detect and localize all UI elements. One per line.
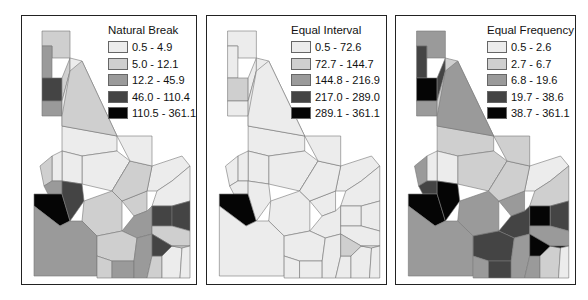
county-region [62,151,82,184]
legend-equal-interval: Equal Interval 0.5 - 72.6 72.7 - 144.7 1… [291,24,380,122]
county-region [437,151,458,184]
legend-title: Equal Interval [291,24,380,36]
legend-swatch [108,41,128,53]
legend-item: 0.5 - 72.6 [291,39,380,56]
legend-label: 217.0 - 289.0 [315,91,380,103]
legend-swatch [487,58,507,70]
legend-equal-frequency: Equal Frequency 0.5 - 2.6 2.7 - 6.7 6.8 … [487,24,574,122]
county-region [284,231,325,261]
county-region [42,78,62,101]
legend-item: 0.5 - 2.6 [487,39,574,56]
legend-label: 5.0 - 12.1 [132,58,178,70]
legend-swatch [487,91,507,103]
legend-item: 46.0 - 110.4 [108,89,196,106]
legend-item: 72.7 - 144.7 [291,56,380,73]
county-region [341,206,362,226]
county-region [300,261,323,278]
legend-title: Equal Frequency [487,24,574,36]
legend-label: 0.5 - 4.9 [132,41,172,53]
county-region [112,261,134,278]
panel-equal-interval: Equal Interval 0.5 - 72.6 72.7 - 144.7 1… [206,15,387,285]
county-region [427,151,437,181]
county-region [42,46,52,78]
county-region [417,78,438,101]
legend-item: 5.0 - 12.1 [108,56,196,73]
legend-item: 38.7 - 361.1 [487,105,574,122]
legend-label: 38.7 - 361.1 [511,107,570,119]
legend-label: 46.0 - 110.4 [132,91,190,103]
county-region [152,206,172,226]
county-region [489,261,512,278]
legend-swatch [291,91,311,103]
legend-item: 289.1 - 361.1 [291,105,380,122]
county-region [417,46,427,78]
legend-label: 72.7 - 144.7 [315,58,374,70]
legend-item: 0.5 - 4.9 [108,39,196,56]
county-region [473,231,514,261]
county-region [97,231,137,261]
panel-natural-break: Natural Break 0.5 - 4.9 5.0 - 12.1 12.2 … [21,15,197,285]
legend-natural-break: Natural Break 0.5 - 4.9 5.0 - 12.1 12.2 … [108,24,196,122]
legend-item: 217.0 - 289.0 [291,89,380,106]
legend-swatch [487,74,507,86]
legend-item: 144.8 - 216.9 [291,72,380,89]
legend-label: 19.7 - 38.6 [511,91,564,103]
legend-swatch [291,41,311,53]
legend-item: 110.5 - 361.1 [108,105,196,122]
legend-label: 12.2 - 45.9 [132,74,185,86]
legend-swatch [108,91,128,103]
legend-title: Natural Break [108,24,196,36]
county-region [42,101,62,116]
county-region [417,101,438,116]
legend-label: 2.7 - 6.7 [511,58,551,70]
legend-label: 110.5 - 361.1 [132,107,196,119]
county-region [228,78,249,101]
legend-swatch [108,107,128,119]
county-region [52,151,62,181]
legend-item: 12.2 - 45.9 [108,72,196,89]
county-region [228,101,249,116]
legend-item: 2.7 - 6.7 [487,56,574,73]
legend-swatch [291,58,311,70]
legend-swatch [108,58,128,70]
legend-swatch [487,107,507,119]
panel-equal-frequency: Equal Frequency 0.5 - 2.6 2.7 - 6.7 6.8 … [395,15,576,285]
legend-label: 289.1 - 361.1 [315,107,380,119]
county-region [238,151,248,181]
county-region [226,156,238,186]
legend-item: 19.7 - 38.6 [487,89,574,106]
county-region [228,46,238,78]
county-region [437,61,494,136]
county-region [530,206,551,226]
legend-swatch [291,107,311,119]
legend-label: 144.8 - 216.9 [315,74,380,86]
legend-swatch [487,41,507,53]
legend-label: 6.8 - 19.6 [511,74,557,86]
legend-swatch [291,74,311,86]
county-region [415,156,427,186]
legend-swatch [108,74,128,86]
legend-label: 0.5 - 72.6 [315,41,361,53]
legend-item: 6.8 - 19.6 [487,72,574,89]
legend-label: 0.5 - 2.6 [511,41,551,53]
county-region [248,151,269,184]
county-region [40,156,52,186]
